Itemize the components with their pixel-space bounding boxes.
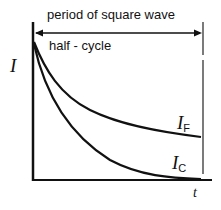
faradaic-current-curve xyxy=(34,42,201,137)
capacitive-label: IC xyxy=(172,152,186,174)
capacitive-subscript: C xyxy=(178,162,186,174)
x-axis-label: t xyxy=(193,185,197,201)
period-label: period of square wave xyxy=(47,7,175,22)
faradaic-subscript: F xyxy=(183,122,190,134)
y-axis-label: I xyxy=(10,55,16,77)
arrow-left-icon xyxy=(35,30,43,37)
current-decay-diagram xyxy=(0,0,221,210)
half-cycle-label: half - cycle xyxy=(49,38,111,53)
faradaic-label: IF xyxy=(177,112,190,134)
arrow-right-icon xyxy=(194,30,202,37)
